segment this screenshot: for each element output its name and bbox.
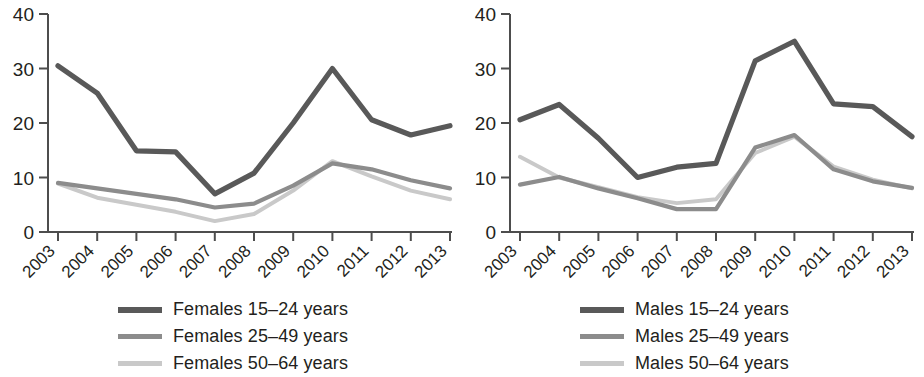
x-tick-label: 2005 [559,241,599,281]
legend-item-label: Males 15–24 years [635,299,789,320]
x-tick-label-group: 2008 [677,241,717,281]
x-tick-label-group: 2007 [175,241,215,281]
y-tick-label: 0 [485,222,496,243]
x-tick-label-group: 2011 [795,241,834,280]
x-tick-label: 2006 [136,241,176,281]
legend-item: Males 25–49 years [580,323,789,350]
plot-area-males: 0102030402003200420052006200720082009201… [462,0,924,292]
legend-item: Females 50–64 years [118,350,348,377]
legend-item: Males 15–24 years [580,296,789,323]
two-panel-line-chart-figure: 0102030402003200420052006200720082009201… [0,0,924,377]
x-tick-label: 2013 [873,241,913,281]
x-tick-label: 2007 [175,241,215,281]
legend-item: Males 50–64 years [580,350,789,377]
y-tick-label: 30 [475,59,496,80]
x-tick-label-group: 2010 [755,241,795,281]
x-tick-label-group: 2007 [637,241,677,281]
x-tick-label-group: 2004 [58,241,98,281]
y-tick-label: 10 [13,168,34,189]
legend-item: Females 25–49 years [118,323,348,350]
x-tick-label-group: 2005 [559,241,599,281]
legend-line-swatch-icon [118,334,162,339]
x-tick-label: 2011 [795,241,834,280]
x-tick-label-group: 2005 [97,241,137,281]
x-tick-label-group: 2004 [520,241,560,281]
x-tick-label: 2008 [677,241,717,281]
x-tick-label: 2004 [58,241,98,281]
x-tick-label-group: 2013 [411,241,451,281]
x-tick-label-group: 2013 [873,241,913,281]
x-tick-label-group: 2011 [333,241,372,280]
y-tick-label: 10 [475,168,496,189]
x-tick-label-group: 2003 [19,241,59,281]
x-tick-label: 2010 [293,241,333,281]
x-tick-label: 2010 [755,241,795,281]
x-tick-label: 2012 [371,241,411,281]
x-tick-label: 2007 [637,241,677,281]
y-tick-label: 20 [13,113,34,134]
y-tick-label: 0 [23,222,34,243]
legend-males: Males 15–24 years Males 25–49 years Male… [462,296,924,377]
line-plot-svg-females: 0102030402003200420052006200720082009201… [0,0,462,292]
legend-item: Females 15–24 years [118,296,348,323]
legend-females: Females 15–24 years Females 25–49 years … [0,296,462,377]
x-tick-label: 2005 [97,241,137,281]
legend-item-label: Females 15–24 years [173,299,348,320]
x-tick-label: 2006 [598,241,638,281]
x-tick-label-group: 2006 [598,241,638,281]
x-tick-label: 2013 [411,241,451,281]
x-tick-label-group: 2009 [254,241,294,281]
series-line [520,137,912,203]
x-tick-label: 2009 [254,241,294,281]
x-tick-label-group: 2006 [136,241,176,281]
x-tick-label: 2003 [19,241,59,281]
x-tick-label-group: 2008 [215,241,255,281]
legend-line-swatch-icon [118,307,162,313]
legend-item-label: Females 25–49 years [173,326,348,347]
x-tick-label-group: 2012 [833,241,873,281]
y-tick-label: 30 [13,59,34,80]
x-tick-label: 2009 [716,241,756,281]
y-tick-label: 20 [475,113,496,134]
x-tick-label: 2008 [215,241,255,281]
x-tick-label: 2004 [520,241,560,281]
x-tick-label-group: 2012 [371,241,411,281]
x-tick-label: 2012 [833,241,873,281]
y-tick-label: 40 [13,4,34,25]
legend-item-label: Females 50–64 years [173,353,348,374]
x-tick-label-group: 2003 [481,241,521,281]
legend-line-swatch-icon [580,334,624,339]
plot-area-females: 0102030402003200420052006200720082009201… [0,0,462,292]
legend-line-swatch-icon [580,307,624,313]
legend-line-swatch-icon [580,361,624,366]
x-tick-label: 2011 [333,241,372,280]
legend-line-swatch-icon [118,361,162,366]
chart-panel-males: 0102030402003200420052006200720082009201… [462,0,924,377]
legend-item-label: Males 50–64 years [635,353,789,374]
x-tick-label-group: 2010 [293,241,333,281]
line-plot-svg-males: 0102030402003200420052006200720082009201… [462,0,924,292]
legend-item-label: Males 25–49 years [635,326,789,347]
series-line [520,41,912,177]
x-tick-label: 2003 [481,241,521,281]
y-tick-label: 40 [475,4,496,25]
chart-panel-females: 0102030402003200420052006200720082009201… [0,0,462,377]
x-tick-label-group: 2009 [716,241,756,281]
